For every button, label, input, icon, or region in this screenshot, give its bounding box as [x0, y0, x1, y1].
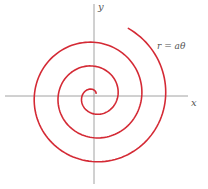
y-axis-label: y: [98, 2, 104, 12]
equation-label: r = aθ: [157, 41, 185, 51]
spiral-diagram: [0, 0, 208, 189]
archimedean-spiral-curve: [34, 28, 166, 161]
x-axis-label: x: [191, 98, 197, 108]
